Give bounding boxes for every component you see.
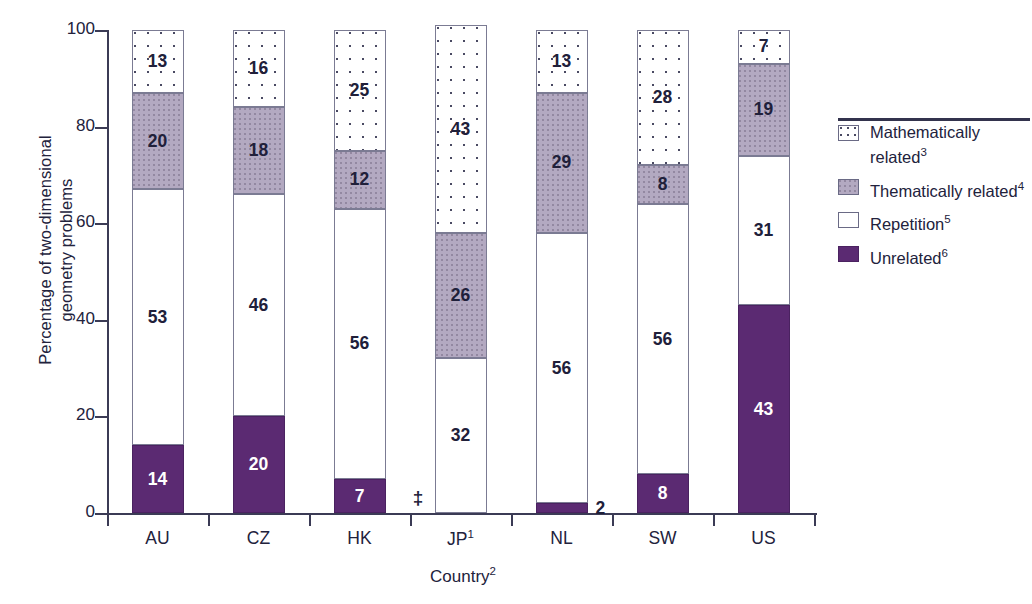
x-tick-label-au: AU bbox=[107, 528, 208, 549]
y-tick-mark bbox=[95, 320, 107, 322]
bar-segment-au-repetition[interactable]: 53 bbox=[132, 189, 184, 445]
bar-cz[interactable]: 20461816 bbox=[233, 30, 285, 513]
bar-segment-value: 43 bbox=[451, 119, 470, 140]
suppressed-marker: ‡ bbox=[413, 488, 424, 507]
x-tick-mark bbox=[814, 515, 816, 526]
math-swatch-icon bbox=[838, 125, 859, 141]
bar-segment-value: 18 bbox=[249, 140, 268, 161]
bar-segment-cz-thematically-related[interactable]: 18 bbox=[233, 107, 285, 194]
bar-segment-nl-mathematically-related[interactable]: 13 bbox=[536, 30, 588, 93]
y-tick-mark bbox=[95, 513, 107, 515]
y-axis-tick-labels: 020406080100 bbox=[45, 30, 95, 515]
y-tick-label: 40 bbox=[49, 309, 95, 329]
x-tick-label-nl: NL bbox=[511, 528, 612, 549]
legend-item-repetition[interactable]: Repetition5 bbox=[838, 209, 1028, 234]
bar-segment-cz-repetition[interactable]: 46 bbox=[233, 194, 285, 416]
x-tick-mark bbox=[410, 515, 412, 526]
bar-segment-value: 32 bbox=[451, 425, 470, 446]
bar-segment-hk-thematically-related[interactable]: 12 bbox=[334, 151, 386, 209]
bar-segment-cz-mathematically-related[interactable]: 16 bbox=[233, 30, 285, 107]
bar-segment-au-thematically-related[interactable]: 20 bbox=[132, 93, 184, 190]
bar-au[interactable]: 14532013 bbox=[132, 30, 184, 513]
bar-segment-jp-thematically-related[interactable]: 26 bbox=[435, 233, 487, 359]
legend-item-mathematically-related[interactable]: Mathematically related3 bbox=[838, 122, 1028, 167]
bar-segment-value: 7 bbox=[759, 36, 769, 57]
stacked-bar-chart-figure: Percentage of two-dimensional geometry p… bbox=[0, 0, 1032, 604]
bar-segment-value: 46 bbox=[249, 295, 268, 316]
legend-item-thematically-related[interactable]: Thematically related4 bbox=[838, 176, 1028, 201]
bar-segment-value: 20 bbox=[148, 131, 167, 152]
x-tick-mark bbox=[713, 515, 715, 526]
y-tick-mark bbox=[95, 416, 107, 418]
bar-segment-value: 28 bbox=[653, 87, 672, 108]
x-tick-label-hk: HK bbox=[309, 528, 410, 549]
bar-segment-value: 2 bbox=[596, 498, 606, 519]
unrelated-swatch-icon bbox=[838, 246, 859, 262]
y-tick-label: 20 bbox=[49, 405, 95, 425]
x-tick-mark bbox=[309, 515, 311, 526]
legend-item-label: Thematically related4 bbox=[870, 176, 1024, 201]
y-tick-label: 60 bbox=[49, 212, 95, 232]
x-tick-label-cz: CZ bbox=[208, 528, 309, 549]
x-tick-label-sw: SW bbox=[612, 528, 713, 549]
bar-segment-value: 43 bbox=[754, 399, 773, 420]
bar-segment-cz-unrelated[interactable]: 20 bbox=[233, 416, 285, 513]
legend-item-label: Repetition5 bbox=[870, 209, 951, 234]
bar-segment-value: 8 bbox=[658, 483, 668, 504]
bar-segment-value: 29 bbox=[552, 152, 571, 173]
bar-segment-us-thematically-related[interactable]: 19 bbox=[738, 64, 790, 156]
bar-segment-jp-repetition[interactable]: 32 bbox=[435, 358, 487, 513]
bar-us[interactable]: 4331197 bbox=[738, 30, 790, 513]
y-tick-mark bbox=[95, 30, 107, 32]
bar-segment-value: 14 bbox=[148, 469, 167, 490]
bar-segment-hk-repetition[interactable]: 56 bbox=[334, 209, 386, 479]
repetition-swatch-icon bbox=[838, 212, 859, 228]
legend-item-label: Unrelated6 bbox=[870, 243, 948, 268]
bar-segment-sw-mathematically-related[interactable]: 28 bbox=[637, 30, 689, 165]
bar-segment-nl-thematically-related[interactable]: 29 bbox=[536, 93, 588, 233]
x-axis-tick-labels: AUCZHKJP1NLSWUS bbox=[107, 528, 819, 558]
y-tick-label: 100 bbox=[49, 19, 95, 39]
bar-segment-sw-unrelated[interactable]: 8 bbox=[637, 474, 689, 513]
bar-segment-value: 12 bbox=[350, 169, 369, 190]
bar-segment-us-unrelated[interactable]: 43 bbox=[738, 305, 790, 513]
bar-segment-sw-repetition[interactable]: 56 bbox=[637, 204, 689, 474]
legend-item-label: Mathematically related3 bbox=[870, 122, 1028, 167]
bar-jp[interactable]: ‡322643 bbox=[435, 30, 487, 513]
bar-segment-value: 8 bbox=[658, 174, 668, 195]
legend-divider bbox=[838, 118, 1030, 121]
bar-segment-us-mathematically-related[interactable]: 7 bbox=[738, 30, 790, 64]
chart-legend: Mathematically related3Thematically rela… bbox=[838, 122, 1028, 276]
bar-segment-value: 19 bbox=[754, 99, 773, 120]
bar-segment-value: 56 bbox=[350, 333, 369, 354]
bar-segment-value: 31 bbox=[754, 220, 773, 241]
bar-segment-hk-mathematically-related[interactable]: 25 bbox=[334, 30, 386, 151]
bar-segment-nl-repetition[interactable]: 56 bbox=[536, 233, 588, 503]
legend-item-unrelated[interactable]: Unrelated6 bbox=[838, 243, 1028, 268]
bar-sw[interactable]: 856828 bbox=[637, 30, 689, 513]
bar-segment-value: 56 bbox=[552, 358, 571, 379]
y-tick-mark bbox=[95, 127, 107, 129]
bar-hk[interactable]: 7561225 bbox=[334, 30, 386, 513]
thematic-swatch-icon bbox=[838, 179, 859, 195]
plot-area: 14532013204618167561225‡3226432562913856… bbox=[107, 30, 814, 513]
bar-segment-value: 7 bbox=[355, 486, 365, 507]
bar-nl[interactable]: 2562913 bbox=[536, 30, 588, 513]
x-tick-label-jp: JP1 bbox=[410, 528, 511, 550]
bar-segment-au-unrelated[interactable]: 14 bbox=[132, 445, 184, 513]
bar-segment-value: 13 bbox=[552, 51, 571, 72]
bar-segment-sw-thematically-related[interactable]: 8 bbox=[637, 165, 689, 204]
bar-segment-hk-unrelated[interactable]: 7 bbox=[334, 479, 386, 513]
bar-segment-nl-unrelated[interactable]: 2 bbox=[536, 503, 588, 513]
x-axis-title: Country2 bbox=[107, 565, 819, 587]
bar-segment-us-repetition[interactable]: 31 bbox=[738, 156, 790, 306]
bar-segment-value: 13 bbox=[148, 51, 167, 72]
x-tick-mark bbox=[511, 515, 513, 526]
x-tick-label-us: US bbox=[713, 528, 814, 549]
y-tick-label: 80 bbox=[49, 116, 95, 136]
x-tick-mark bbox=[612, 515, 614, 526]
x-tick-mark bbox=[208, 515, 210, 526]
x-axis-ticks bbox=[107, 515, 819, 527]
bar-segment-au-mathematically-related[interactable]: 13 bbox=[132, 30, 184, 93]
bar-segment-jp-mathematically-related[interactable]: 43 bbox=[435, 25, 487, 233]
